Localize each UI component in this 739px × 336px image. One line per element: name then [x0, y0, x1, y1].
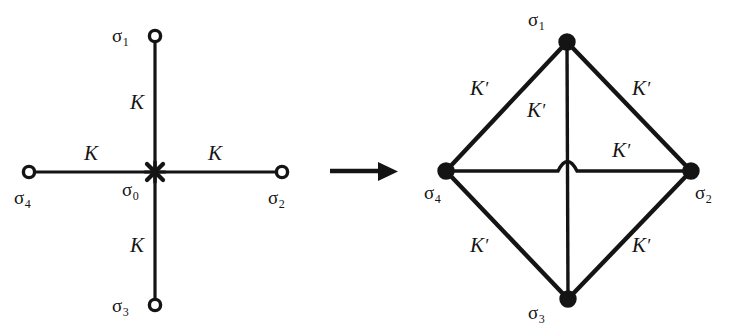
node-sigma0-x-marker: [145, 162, 165, 182]
left-node-label-sigma1: σ1: [112, 26, 128, 45]
right-node-label-sigma1: σ1: [528, 10, 544, 29]
left-node-label-sigma3: σ3: [112, 296, 128, 315]
right-edge-label-Kprime-upper-right: K′: [632, 78, 650, 99]
right-node-label-sigma2: σ2: [695, 183, 711, 202]
bond-sigma2-sigma3-Kprime: [568, 171, 691, 299]
node-sigma4-open-circle: [23, 166, 34, 177]
right-edge-label-Kprime-horizontal-diagonal: K′: [612, 140, 630, 161]
bond-sigma1-sigma4-Kprime: [446, 42, 567, 171]
bond-sigma1-sigma3-Kprime: [567, 42, 568, 299]
figure-canvas: [0, 0, 739, 336]
left-edge-label-K-top: K: [130, 92, 144, 113]
right-edge-label-Kprime-vertical-diagonal: K′: [527, 100, 545, 121]
node-sigma2-open-circle: [276, 166, 287, 177]
node-sigma3-filled-ring: [561, 292, 576, 307]
right-edge-label-Kprime-lower-left: K′: [470, 235, 488, 256]
left-node-label-sigma0: σ0: [122, 180, 138, 199]
transform-arrow: [330, 162, 398, 181]
node-sigma2-filled-ring: [684, 164, 699, 179]
left-edge-label-K-left: K: [84, 143, 98, 164]
right-node-label-sigma3: σ3: [528, 303, 544, 322]
decimation-transformation-figure: σ1 σ2 σ3 σ4 σ0 K K K K σ1 σ2 σ3 σ4 K′ K′…: [0, 0, 739, 336]
left-node-label-sigma2: σ2: [268, 188, 284, 207]
left-edge-label-K-right: K: [208, 143, 222, 164]
right-edge-label-Kprime-lower-right: K′: [632, 235, 650, 256]
node-sigma1-filled-ring: [560, 35, 575, 50]
left-node-label-sigma4: σ4: [14, 188, 30, 207]
node-sigma4-filled-ring: [439, 164, 454, 179]
right-node-label-sigma4: σ4: [424, 183, 440, 202]
left-diagram-group: [23, 30, 287, 310]
left-edge-label-K-bottom: K: [130, 235, 144, 256]
bond-sigma4-sigma3-Kprime: [446, 171, 568, 299]
right-edge-label-Kprime-upper-left: K′: [470, 78, 488, 99]
node-sigma3-open-circle: [149, 299, 160, 310]
node-sigma1-open-circle: [149, 30, 160, 41]
